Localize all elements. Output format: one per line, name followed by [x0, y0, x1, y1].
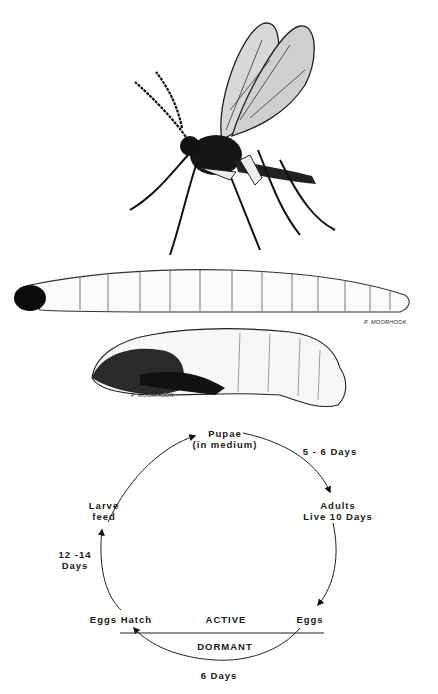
arrow-eggs-hatch-to-larve [101, 530, 121, 610]
duration-hatch-to-larve-line2: Days [52, 560, 98, 571]
life-cycle-diagram [0, 0, 438, 694]
stage-eggs: Eggs [290, 614, 330, 625]
stage-pupae-line1: Pupae [190, 428, 260, 439]
stage-larve: Larve feed [82, 500, 126, 522]
stage-pupae: Pupae (in medium) [190, 428, 260, 450]
zone-dormant: DORMANT [190, 641, 260, 652]
stage-pupae-line2: (in medium) [190, 439, 260, 450]
duration-pupae-to-adults: 5 - 6 Days [300, 446, 360, 457]
stage-adults-line2: Live 10 Days [296, 511, 380, 522]
arrow-adults-to-eggs [318, 523, 336, 605]
stage-adults-line1: Adults [296, 500, 380, 511]
duration-eggs-to-hatch: 6 Days [196, 670, 242, 681]
duration-hatch-to-larve: 12 -14 Days [52, 549, 98, 571]
stage-adults: Adults Live 10 Days [296, 500, 380, 522]
stage-eggs-hatch: Eggs Hatch [88, 614, 154, 625]
zone-active: ACTIVE [196, 614, 256, 625]
stage-larve-line1: Larve [82, 500, 126, 511]
stage-larve-line2: feed [82, 511, 126, 522]
duration-hatch-to-larve-line1: 12 -14 [52, 549, 98, 560]
